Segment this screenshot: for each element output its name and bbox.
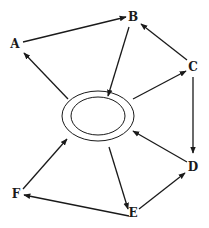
inner-ring (71, 97, 125, 135)
edge-d-to-center (133, 131, 187, 162)
center-double-ellipse (62, 91, 134, 141)
edge-c-to-b (141, 24, 187, 60)
node-label-d: D (188, 160, 198, 174)
node-label-b: B (128, 10, 138, 24)
nodes-group: A B C D E F (9, 10, 198, 220)
edge-center-to-e (109, 147, 128, 209)
edge-b-to-center (108, 27, 129, 96)
cycle-diagram: A B C D E F (0, 0, 209, 228)
edge-e-to-d (139, 173, 185, 209)
edges-group (23, 17, 193, 216)
node-label-a: A (9, 37, 20, 51)
node-label-e: E (128, 206, 137, 220)
edge-center-to-a (24, 53, 68, 99)
edge-f-to-center (23, 139, 67, 189)
edge-a-to-b (23, 17, 126, 42)
outer-ring (62, 91, 134, 141)
node-label-c: C (188, 60, 198, 74)
edge-e-to-f (24, 195, 129, 216)
node-label-f: F (12, 187, 21, 201)
edge-center-to-c (133, 71, 186, 99)
